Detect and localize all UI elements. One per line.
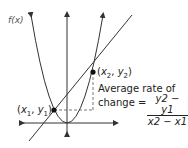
point-2: [90, 69, 95, 74]
annotation-line2: change =: [98, 97, 146, 108]
point-1-label: (x1, y1): [17, 104, 52, 120]
point-2-label: (x2, y2): [97, 66, 132, 82]
rate-fraction: y2 − y1 x2 − x1: [147, 93, 188, 127]
function-label: f(x): [8, 15, 24, 26]
fraction-denominator: x2 − x1: [147, 116, 188, 127]
fraction-numerator: y2 − y1: [147, 93, 188, 116]
point-1: [51, 107, 56, 112]
